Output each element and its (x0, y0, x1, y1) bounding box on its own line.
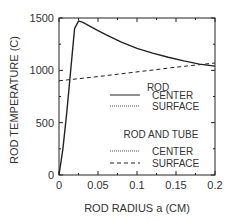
x-axis-title: ROD RADIUS a (CM) (84, 202, 190, 214)
y-tick-label: 0 (48, 169, 54, 181)
x-tick-label: 0 (56, 179, 62, 191)
legend-label: CENTER (152, 90, 193, 101)
x-tick-label: 0.05 (87, 179, 108, 191)
legend-label: CENTER (152, 146, 193, 157)
y-tick-label: 500 (36, 117, 54, 129)
legend-group-title-rod-and-tube: ROD AND TUBE (124, 129, 199, 140)
legend: ROD CENTER SURFACE ROD AND TUBE CENTER S… (110, 82, 200, 169)
x-tick-label: 0.1 (129, 179, 144, 191)
chart: 050010001500 00.050.10.150.2 ROD RADIUS … (0, 0, 232, 220)
legend-label: SURFACE (152, 158, 200, 169)
legend-label: SURFACE (152, 101, 200, 112)
x-tick-label: 0.2 (207, 179, 222, 191)
series-rod-and-tube-surface (59, 63, 215, 81)
y-tick-label: 1500 (30, 12, 54, 24)
x-tick-label: 0.15 (165, 179, 186, 191)
y-tick-label: 1000 (30, 64, 54, 76)
y-axis-title: ROD TEMPERATURE (C) (8, 36, 20, 164)
